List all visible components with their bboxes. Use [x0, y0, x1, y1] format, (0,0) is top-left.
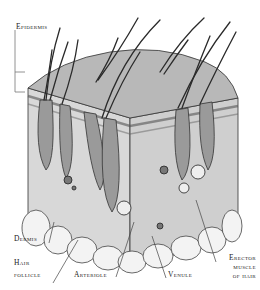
epidermis-bracket — [15, 30, 25, 92]
label-erector-line3: of hair — [210, 271, 256, 280]
label-hair-follicle-line1: Hair — [14, 258, 30, 267]
skin-illustration — [0, 0, 260, 290]
label-erector-line1: Erector — [218, 253, 256, 262]
label-epidermis: Epidermis — [16, 22, 48, 31]
label-dermis: Dermis — [14, 234, 37, 243]
label-venule: Venule — [168, 270, 192, 279]
label-erector-line2: muscle — [218, 262, 256, 271]
label-arteriole: Arteriole — [74, 270, 107, 279]
label-hair-follicle-line2: follicle — [14, 270, 41, 279]
